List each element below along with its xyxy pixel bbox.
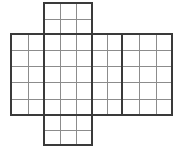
cube-net-svg (0, 0, 180, 151)
figure-background (0, 0, 180, 151)
cube-net-figure (0, 0, 180, 151)
